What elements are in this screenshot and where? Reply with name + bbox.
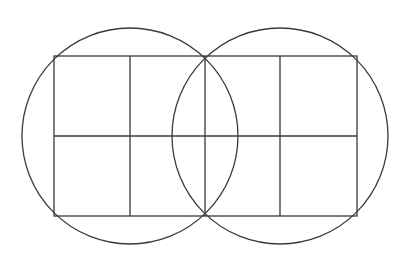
diagram-canvas — [0, 0, 410, 265]
overlapping-circles-grid-diagram — [0, 0, 410, 265]
grid-lines-group — [54, 56, 357, 216]
